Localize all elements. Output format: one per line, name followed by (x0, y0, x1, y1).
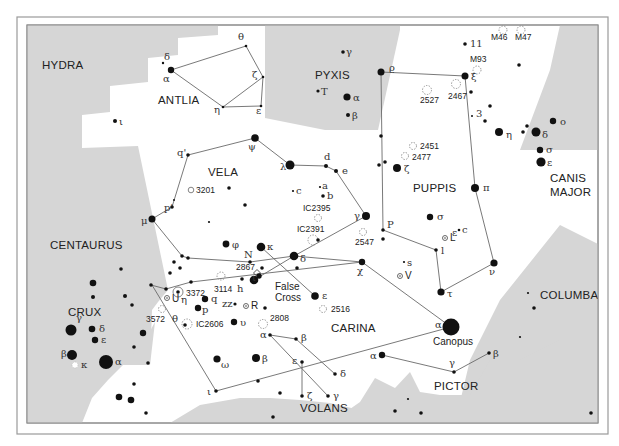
star-icon (343, 93, 350, 100)
star-icon (471, 115, 473, 117)
cluster-label: 2516 (331, 304, 350, 314)
star-label: δ (542, 129, 548, 140)
star-icon (527, 292, 529, 294)
star-icon (294, 337, 298, 341)
star-icon (243, 203, 247, 207)
star-icon (195, 305, 201, 311)
star-icon (178, 266, 182, 270)
star-label: β (301, 332, 307, 343)
star-icon (186, 153, 190, 157)
star-icon (407, 398, 409, 400)
constellation-label: MAJOR (550, 186, 591, 198)
star-label: ε (292, 355, 297, 366)
cluster-label: 2477 (412, 152, 431, 162)
star-label: N (244, 249, 253, 260)
star-icon (286, 161, 295, 170)
star-icon (452, 370, 456, 374)
star-label: c (296, 185, 302, 196)
star-icon (183, 323, 187, 327)
star-icon (260, 266, 264, 270)
constellation-label: CENTAURUS (50, 239, 123, 251)
star-icon (311, 292, 319, 300)
cluster-label: M47 (515, 32, 532, 42)
star-icon (144, 411, 148, 415)
star-label: α (353, 92, 360, 103)
star-icon (271, 415, 275, 419)
star-label: ζ (252, 69, 258, 80)
star-label: β (262, 353, 268, 364)
star-icon (469, 90, 473, 94)
star-icon (128, 397, 135, 404)
star-icon (319, 186, 321, 188)
star-icon (326, 394, 330, 398)
star-label: ξ (471, 71, 477, 82)
star-icon (383, 160, 387, 164)
star-label: q' (177, 147, 186, 158)
cluster-label: M93 (470, 54, 487, 64)
star-icon (189, 280, 193, 284)
constellation-label: PUPPIS (413, 182, 457, 194)
star-icon (132, 345, 136, 349)
variable-label: U (172, 293, 179, 304)
constellation-label: PYXIS (315, 69, 350, 81)
star-icon (168, 271, 172, 275)
star-icon (233, 302, 236, 305)
star-icon (488, 104, 492, 108)
star-icon (90, 280, 97, 287)
star-icon (487, 351, 491, 355)
star-label: β (352, 110, 358, 121)
star-label: s (407, 257, 412, 268)
star-icon (140, 330, 146, 336)
cluster-label: IC2395 (303, 203, 331, 213)
star-label: P (387, 219, 394, 230)
star-label: γ (449, 357, 455, 368)
star-label: T (321, 86, 328, 97)
star-icon (321, 194, 325, 198)
star-label: δ (164, 51, 170, 62)
star-icon (471, 184, 479, 192)
star-icon (377, 163, 381, 167)
star-icon (378, 69, 385, 76)
star-label: φ (232, 239, 239, 250)
star-icon (91, 295, 95, 299)
cluster-label: 2547 (355, 237, 374, 247)
planetary-label: 2867 (236, 262, 255, 272)
star-icon (589, 411, 593, 415)
star-label: δ (300, 253, 306, 264)
constellation-label: CARINA (331, 322, 376, 334)
constellation-label: VOLANS (300, 402, 348, 414)
star-icon (292, 190, 294, 192)
star-icon (495, 128, 503, 136)
star-label: α (370, 350, 377, 361)
star-icon (458, 229, 461, 232)
star-icon (300, 360, 304, 364)
star-icon (537, 147, 543, 153)
star-label: γ (346, 46, 352, 57)
star-icon (525, 124, 529, 128)
star-icon (341, 50, 345, 54)
cluster-label: 2451 (420, 141, 439, 151)
star-icon (333, 372, 337, 376)
star-icon (532, 128, 541, 137)
star-icon (517, 63, 521, 67)
star-icon (208, 221, 210, 223)
star-label: υ (240, 317, 246, 328)
star-icon (66, 325, 77, 336)
star-label: χ (357, 265, 363, 276)
star-icon (381, 228, 385, 232)
star-icon (186, 256, 190, 260)
star-label: τ (447, 288, 453, 299)
star-label: μ (141, 215, 148, 226)
star-label: h (237, 283, 244, 294)
star-icon (324, 164, 328, 168)
cluster-label: 2808 (270, 313, 289, 323)
constellation-label: CRUX (68, 306, 102, 318)
star-label: q (211, 293, 218, 304)
variable-label: R (251, 300, 258, 311)
star-icon (268, 333, 272, 337)
star-label: 3 (476, 108, 482, 119)
star-icon (521, 130, 525, 134)
star-icon (116, 394, 123, 401)
star-icon (223, 241, 230, 248)
star-icon (256, 273, 261, 278)
